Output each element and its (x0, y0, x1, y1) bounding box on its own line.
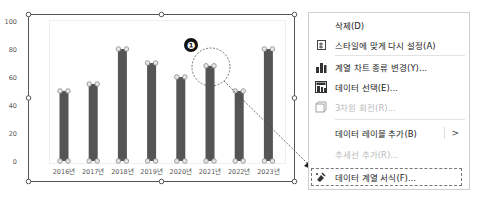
selection-handle[interactable] (233, 89, 238, 94)
menu-item-label: 데이터 선택(E)... (335, 81, 398, 93)
menu-separator (335, 55, 465, 56)
menu-item-format-data-series[interactable]: 데이터 계열 서식(F)... (309, 167, 469, 187)
context-menu: 삭제(D) 스타일에 맞게 다시 설정(A) 계열 차트 종류 변경(Y)...… (308, 12, 470, 190)
x-tick-label: 2022년 (228, 167, 251, 176)
selection-handle[interactable] (270, 47, 275, 52)
selection-handle[interactable] (183, 75, 188, 80)
x-tick-label: 2017년 (82, 167, 105, 176)
selection-handle[interactable] (87, 159, 92, 164)
selection-handle[interactable] (95, 159, 100, 164)
x-tick-label: 2021년 (199, 167, 222, 176)
bar-chart-icon (315, 61, 327, 73)
menu-item-change-series-chart-type[interactable]: 계열 차트 종류 변경(Y)... (309, 57, 469, 77)
selection-handle[interactable] (270, 159, 275, 164)
menu-item-label: 데이터 레이블 추가(B) (335, 127, 417, 139)
selection-handle[interactable] (145, 61, 150, 66)
menu-item-add-trendline[interactable]: 추세선 추가(R)... (309, 144, 469, 164)
menu-item-add-data-labels[interactable]: 데이터 레이블 추가(B) > (309, 123, 469, 143)
x-tick-label: 2018년 (111, 167, 134, 176)
3d-rotation-icon (315, 101, 327, 113)
selection-handle[interactable] (241, 159, 246, 164)
y-tick-label: 0 (13, 158, 17, 166)
selection-handle[interactable] (66, 89, 71, 94)
bar[interactable] (206, 66, 215, 161)
selection-handle[interactable] (241, 89, 246, 94)
bar[interactable] (118, 49, 127, 161)
selection-handle[interactable] (183, 159, 188, 164)
chevron-right-icon: > (451, 128, 459, 138)
selection-handle[interactable] (116, 47, 121, 52)
menu-item-3d-rotation[interactable]: 3차원 회전(R)... (309, 97, 469, 117)
selection-handle[interactable] (153, 61, 158, 66)
resize-handle[interactable] (159, 179, 164, 184)
step-marker: ❶ (184, 38, 198, 52)
x-tick-label: 2019년 (140, 167, 163, 176)
selection-handle[interactable] (262, 159, 267, 164)
y-tick-label: 100 (5, 18, 17, 26)
selection-handle[interactable] (116, 159, 121, 164)
selection-handle[interactable] (87, 82, 92, 87)
selection-handle[interactable] (58, 159, 63, 164)
selection-handle[interactable] (58, 89, 63, 94)
y-tick-label: 80 (9, 46, 17, 54)
selection-handle[interactable] (233, 159, 238, 164)
selection-handle[interactable] (204, 159, 209, 164)
selection-handle[interactable] (66, 159, 71, 164)
x-tick-label: 2023년 (257, 167, 280, 176)
reset-style-icon (315, 39, 327, 51)
menu-item-label: 추세선 추가(R)... (335, 148, 398, 160)
resize-handle[interactable] (292, 179, 297, 184)
y-tick-label: 60 (9, 74, 17, 82)
bar[interactable] (147, 63, 156, 161)
selection-handle[interactable] (175, 75, 180, 80)
selection-handle[interactable] (262, 47, 267, 52)
selection-handle[interactable] (145, 159, 150, 164)
resize-handle[interactable] (26, 12, 31, 17)
menu-item-label: 3차원 회전(R)... (335, 101, 396, 113)
data-select-icon (315, 81, 327, 93)
resize-handle[interactable] (292, 96, 297, 101)
menu-item-label: 스타일에 맞게 다시 설정(A) (335, 39, 436, 51)
bar[interactable] (264, 49, 273, 161)
menu-item-label: 데이터 계열 서식(F)... (335, 171, 416, 183)
selection-handle[interactable] (153, 159, 158, 164)
bar[interactable] (235, 91, 244, 161)
resize-handle[interactable] (26, 179, 31, 184)
y-tick-label: 20 (9, 130, 17, 138)
selection-handle[interactable] (175, 159, 180, 164)
menu-item-label: 계열 차트 종류 변경(Y)... (335, 61, 427, 73)
selection-handle[interactable] (212, 64, 217, 69)
resize-handle[interactable] (159, 12, 164, 17)
x-tick-label: 2016년 (53, 167, 76, 176)
format-series-icon (315, 171, 327, 183)
menu-separator (335, 119, 465, 120)
bar[interactable] (89, 84, 98, 161)
selection-handle[interactable] (204, 64, 209, 69)
menu-item-select-data[interactable]: 데이터 선택(E)... (309, 77, 469, 97)
submenu-divider (444, 127, 445, 139)
resize-handle[interactable] (292, 12, 297, 17)
plot-area[interactable] (50, 21, 286, 164)
menu-item-reset-style[interactable]: 스타일에 맞게 다시 설정(A) (309, 35, 469, 55)
y-tick-label: 40 (9, 102, 17, 110)
menu-item-label: 삭제(D) (335, 19, 364, 31)
selection-handle[interactable] (212, 159, 217, 164)
selection-handle[interactable] (124, 159, 129, 164)
x-tick-label: 2020년 (170, 167, 193, 176)
menu-item-delete[interactable]: 삭제(D) (309, 15, 469, 35)
selection-handle[interactable] (124, 47, 129, 52)
resize-handle[interactable] (26, 96, 31, 101)
selection-handle[interactable] (95, 82, 100, 87)
bar[interactable] (176, 77, 185, 161)
bar[interactable] (60, 91, 69, 161)
